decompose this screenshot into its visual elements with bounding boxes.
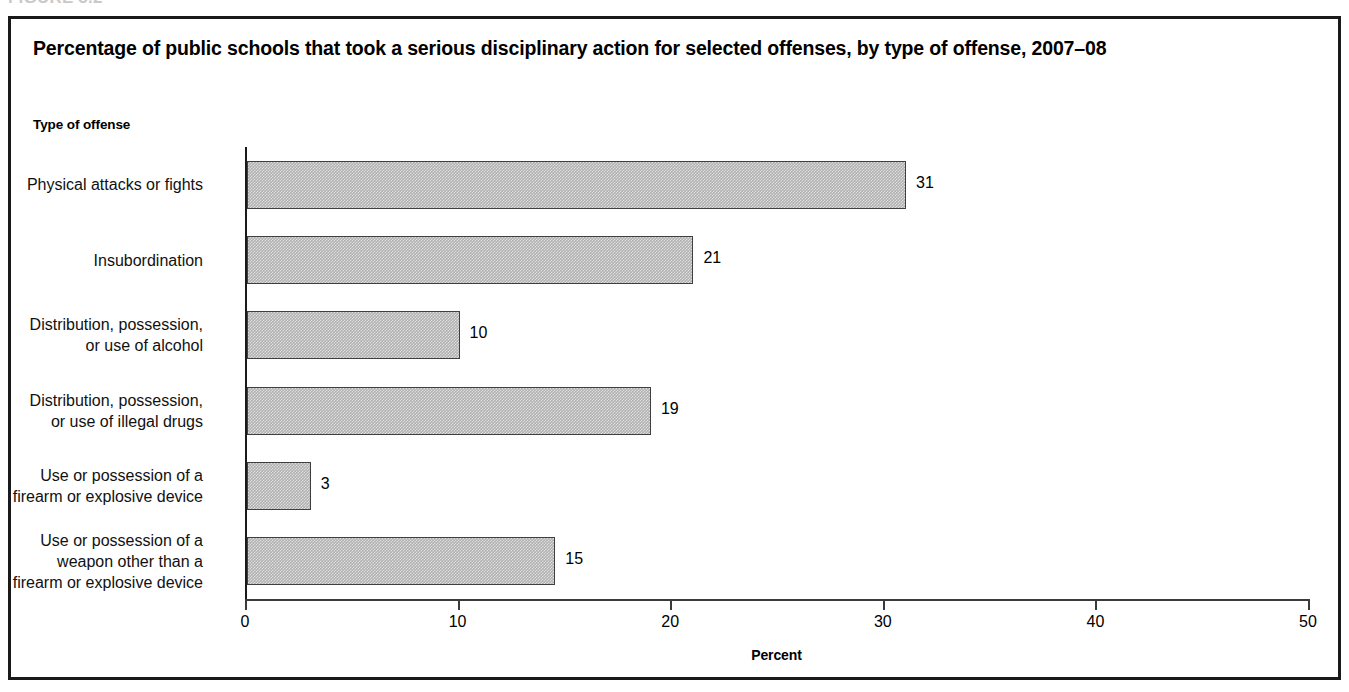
x-tick-label: 20	[661, 613, 679, 631]
x-tick-label: 30	[874, 613, 892, 631]
bar	[247, 387, 651, 435]
x-tick-mark	[245, 599, 247, 610]
x-tick-label: 40	[1086, 613, 1104, 631]
x-tick-mark	[1308, 599, 1310, 610]
x-tick-label: 0	[241, 613, 250, 631]
bar-value-label: 31	[916, 174, 934, 192]
figure-frame: Percentage of public schools that took a…	[8, 16, 1341, 680]
category-label: Use or possession of afirearm or explosi…	[0, 465, 203, 507]
x-tick-mark	[670, 599, 672, 610]
x-axis-title: Percent	[245, 647, 1308, 663]
category-label: Insubordination	[0, 250, 203, 271]
x-tick-label: 50	[1299, 613, 1317, 631]
bar	[247, 236, 693, 284]
y-axis-line	[245, 147, 247, 599]
bar-value-label: 15	[565, 550, 583, 568]
bar	[247, 462, 311, 510]
x-tick-label: 10	[449, 613, 467, 631]
bar	[247, 311, 460, 359]
y-axis-title: Type of offense	[33, 117, 130, 132]
chart-title: Percentage of public schools that took a…	[33, 37, 1313, 59]
bar-value-label: 19	[661, 400, 679, 418]
bar	[247, 537, 555, 585]
category-label: Distribution, possession,or use of alcoh…	[0, 314, 203, 356]
bar-value-label: 3	[321, 475, 330, 493]
category-label: Physical attacks or fights	[0, 174, 203, 195]
bar-value-label: 21	[703, 249, 721, 267]
bar	[247, 161, 906, 209]
x-axis-line	[245, 599, 1310, 601]
x-tick-mark	[1095, 599, 1097, 610]
plot-area: 31211019315 Physical attacks or fightsIn…	[245, 147, 1308, 599]
category-label: Distribution, possession,or use of illeg…	[0, 390, 203, 432]
category-label: Use or possession of aweapon other than …	[0, 530, 203, 593]
bar-value-label: 10	[470, 324, 488, 342]
x-tick-mark	[883, 599, 885, 610]
figure-caption-clipped: FIGURE 5.2	[8, 0, 228, 8]
x-tick-mark	[458, 599, 460, 610]
